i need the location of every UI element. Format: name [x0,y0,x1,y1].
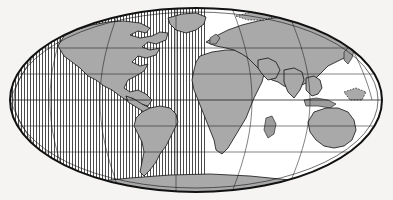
map-svg [0,0,393,200]
world-map-figure [0,0,393,200]
